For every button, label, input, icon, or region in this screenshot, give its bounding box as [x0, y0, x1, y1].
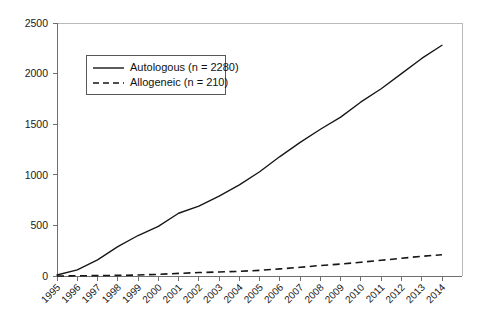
y-tick-label: 2500 — [25, 17, 49, 29]
y-tick-label: 500 — [30, 219, 48, 231]
chart-container: 05001000150020002500 1995199619971998199… — [0, 0, 486, 317]
legend-label-autologous: Autologous (n = 2280) — [130, 61, 239, 73]
y-tick-label: 1500 — [25, 118, 49, 130]
legend-label-allogeneic: Allogeneic (n = 210) — [130, 76, 228, 88]
chart-background — [0, 0, 486, 317]
line-chart: 05001000150020002500 1995199619971998199… — [0, 0, 486, 317]
y-tick-label: 0 — [42, 270, 48, 282]
chart-legend: Autologous (n = 2280) Allogeneic (n = 21… — [86, 55, 239, 94]
y-tick-label: 1000 — [25, 169, 49, 181]
y-tick-label: 2000 — [25, 67, 49, 79]
